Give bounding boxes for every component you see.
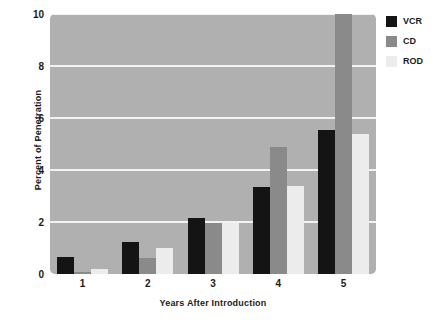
bar-group <box>246 14 311 274</box>
bar-group <box>50 14 115 274</box>
bar-group <box>311 14 376 274</box>
bar-vcr-year-2 <box>122 242 139 275</box>
bar-cd-year-5 <box>335 14 352 274</box>
y-axis-tick-label: 4 <box>14 165 44 176</box>
bar-groups <box>50 14 376 274</box>
y-axis-tick-labels: 0246810 <box>14 14 44 274</box>
legend-swatch-cd <box>386 36 397 47</box>
bar-vcr-year-5 <box>318 130 335 274</box>
legend-swatch-vcr <box>386 16 397 27</box>
bar-vcr-year-1 <box>57 257 74 274</box>
plot-area <box>50 14 376 274</box>
bar-cd-year-3 <box>205 223 222 274</box>
legend-swatch-rod <box>386 56 397 67</box>
bar-group <box>115 14 180 274</box>
legend-label: ROD <box>403 56 423 66</box>
legend-item-rod: ROD <box>386 52 423 70</box>
x-axis-title: Years After Introduction <box>50 298 376 308</box>
bar-group <box>180 14 245 274</box>
x-axis-tick-label: 3 <box>180 278 245 289</box>
y-axis-tick-label: 10 <box>14 9 44 20</box>
bar-rod-year-3 <box>222 223 239 274</box>
bar-rod-year-2 <box>156 248 173 274</box>
y-axis-tick-label: 8 <box>14 61 44 72</box>
x-axis-tick-label: 2 <box>115 278 180 289</box>
y-axis-tick-label: 6 <box>14 113 44 124</box>
bar-cd-year-2 <box>139 258 156 274</box>
x-axis-tick-label: 5 <box>311 278 376 289</box>
bar-cd-year-1 <box>74 272 91 274</box>
bar-rod-year-4 <box>287 186 304 274</box>
bar-cd-year-4 <box>270 147 287 274</box>
bar-rod-year-1 <box>91 269 108 274</box>
legend-label: CD <box>403 36 416 46</box>
legend-label: VCR <box>403 16 422 26</box>
bar-vcr-year-3 <box>188 218 205 274</box>
bar-chart-figure: Percent of Penetration 0246810 12345 Yea… <box>0 0 436 324</box>
x-axis-tick-labels: 12345 <box>50 278 376 289</box>
legend-item-vcr: VCR <box>386 12 423 30</box>
x-axis-tick-label: 4 <box>246 278 311 289</box>
legend: VCRCDROD <box>386 12 423 72</box>
x-axis-tick-label: 1 <box>50 278 115 289</box>
bar-vcr-year-4 <box>253 187 270 274</box>
legend-item-cd: CD <box>386 32 423 50</box>
y-axis-tick-label: 2 <box>14 217 44 228</box>
bar-rod-year-5 <box>352 134 369 274</box>
y-axis-tick-label: 0 <box>14 269 44 280</box>
